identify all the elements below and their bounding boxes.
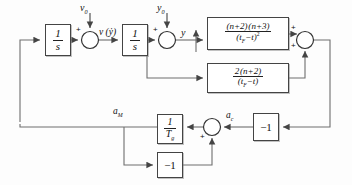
gain-quadratic-denominator: (tF−t)2	[225, 32, 272, 45]
integrator-2-fraction: 1 s	[130, 28, 140, 52]
sum-position	[159, 32, 176, 49]
integrator-1-numerator: 1	[53, 28, 63, 41]
lag-gain-denominator: Tg	[164, 129, 177, 142]
label-input-v0: v0	[80, 3, 88, 15]
block-invert-right[interactable]: −1	[253, 113, 279, 141]
invert-right-label: −1	[260, 121, 272, 133]
wire-feedback-left	[20, 40, 40, 122]
wire-lag-to-am-feedback	[20, 124, 157, 127]
block-invert-bottom[interactable]: −1	[157, 152, 183, 178]
sum-accel-command	[297, 32, 314, 49]
block-gain-quadratic[interactable]: (n+2) (n+3) (tF−t)2	[207, 17, 289, 50]
gain-quadratic-numerator: (n+2) (n+3)	[225, 22, 272, 32]
lag-gain-fraction: 1 Tg	[164, 117, 177, 141]
sum-autopilot	[204, 119, 221, 136]
block-integrator-2[interactable]: 1 s	[122, 24, 148, 56]
label-signal-ac: ac	[226, 111, 233, 123]
sign-plus-sum-position: +	[153, 26, 158, 34]
sign-plus-sum-accel-upper: +	[291, 24, 296, 32]
sign-plus-sum-autopilot: +	[200, 133, 205, 141]
gain-linear-fraction: 2 (n+2) (tF−t)	[233, 67, 263, 89]
invert-bottom-label: −1	[164, 159, 176, 171]
sign-plus-sum-accel-lower: +	[291, 42, 296, 50]
sign-plus-sum-velocity: +	[76, 26, 81, 34]
wire-invert-bottom-to-sum-autopilot	[183, 138, 212, 165]
sum-velocity	[82, 32, 99, 49]
integrator-1-denominator: s	[53, 41, 63, 53]
wire-am-takeoff-to-invert-bottom	[124, 127, 153, 165]
block-integrator-1[interactable]: 1 s	[45, 24, 71, 56]
integrator-2-numerator: 1	[130, 28, 140, 41]
gain-linear-denominator: (tF−t)	[233, 77, 263, 89]
wire-gain-linear-to-sum	[289, 51, 305, 78]
gain-quadratic-fraction: (n+2) (n+3) (tF−t)2	[225, 22, 272, 45]
integrator-2-denominator: s	[130, 41, 140, 53]
wire-v-takeoff-to-gain-linear	[147, 40, 203, 78]
label-input-y0: y0	[157, 3, 165, 15]
wire-sum-output-to-invert-right	[283, 40, 330, 127]
block-diagram-canvas: 1 s 1 s (n+2) (n+3) (tF−t)2 2 (n+2) (tF−…	[0, 0, 352, 185]
integrator-1-fraction: 1 s	[53, 28, 63, 52]
label-signal-am: aM	[113, 107, 123, 119]
block-lag-gain[interactable]: 1 Tg	[157, 114, 183, 144]
block-gain-linear[interactable]: 2 (n+2) (tF−t)	[207, 63, 289, 93]
label-signal-y: y	[181, 28, 185, 38]
label-signal-v-ydot: v (ẏ)	[99, 28, 116, 38]
